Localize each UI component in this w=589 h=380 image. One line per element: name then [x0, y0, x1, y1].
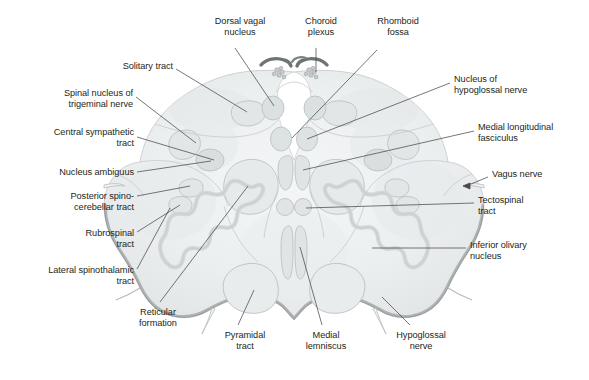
tectospinal-left	[277, 199, 294, 216]
medial-lemniscus-right	[295, 226, 307, 279]
label-nucleus-of-hypoglossal-nerve: Nucleus of hypoglossal nerve	[454, 74, 580, 97]
label-lateral-spinothalamic-tract: Lateral spinothalamic tract	[14, 265, 134, 288]
label-tectospinal-tract: Tectospinal tract	[478, 195, 568, 218]
solitary-tract-nucleus-right	[323, 101, 357, 126]
pyramidal-tract-left	[223, 263, 278, 313]
label-inferior-olivary-nucleus: Inferior olivary nucleus	[470, 240, 580, 263]
label-medial-longitudinal-fasciculus: Medial longitudinal fasciculus	[478, 122, 589, 145]
nucleus-ambiguus-left	[196, 149, 224, 171]
medulla-cross-section-figure: Dorsal vagal nucleus Choroid plexus Rhom…	[0, 0, 589, 380]
label-rubrospinal-tract: Rubrospinal tract	[44, 228, 134, 251]
tectospinal-right	[295, 199, 312, 216]
label-nucleus-ambiguus: Nucleus ambiguus	[23, 167, 134, 178]
hypoglossal-nucleus-left	[271, 127, 292, 151]
rubrospinal-left	[169, 196, 192, 214]
label-medial-lemniscus: Medial lemniscus	[290, 330, 362, 353]
anatomy-illustration	[0, 0, 589, 380]
dorsal-vagal-nucleus-right	[304, 96, 326, 120]
label-spinal-nucleus-of-trigeminal-nerve: Spinal nucleus of trigeminal nerve	[23, 88, 133, 111]
dorsal-vagal-nucleus-shape	[262, 96, 284, 120]
lateral-rootlet-right	[448, 288, 472, 300]
medial-lemniscus-left	[281, 226, 293, 279]
label-dorsal-vagal-nucleus: Dorsal vagal nucleus	[192, 16, 288, 39]
solitary-tract-nucleus	[231, 101, 265, 126]
mlf-left	[278, 156, 293, 191]
label-pyramidal-tract: Pyramidal tract	[209, 330, 281, 353]
label-vagus-nerve: Vagus nerve	[492, 169, 582, 180]
nucleus-ambiguus-right	[364, 149, 392, 171]
label-rhomboid-fossa: Rhomboid fossa	[361, 16, 435, 39]
pyramidal-tract-right	[310, 263, 365, 313]
label-choroid-plexus: Choroid plexus	[287, 16, 355, 39]
label-solitary-tract: Solitary tract	[51, 61, 173, 72]
label-hypoglossal-nerve: Hypoglossal nerve	[378, 330, 464, 353]
mlf-right	[295, 156, 310, 191]
label-central-sympathetic-tract: Central sympathetic tract	[14, 127, 134, 150]
label-reticular-formation: Reticular formation	[122, 307, 194, 330]
lateral-rootlet-left	[116, 288, 140, 300]
label-posterior-spinocerebellar-tract: Posterior spino- cerebellar tract	[28, 191, 134, 214]
